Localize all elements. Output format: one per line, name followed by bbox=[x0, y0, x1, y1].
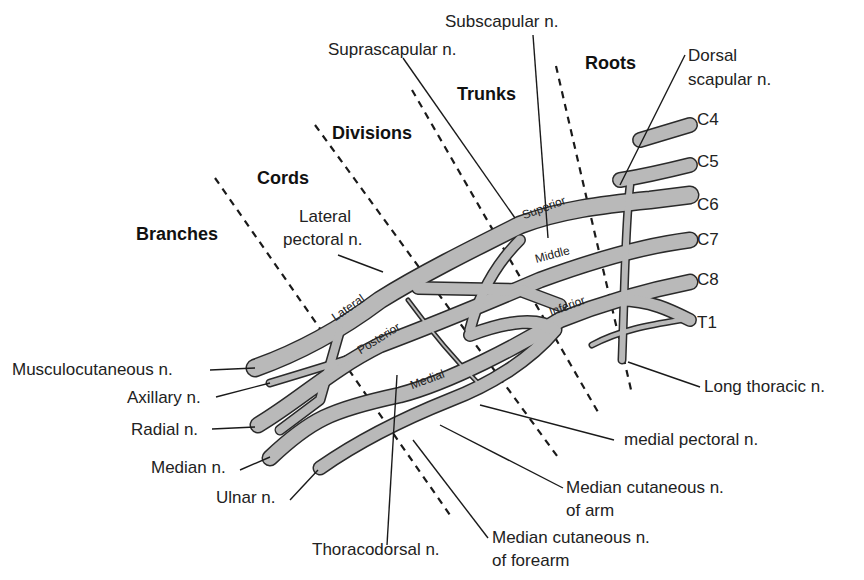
label-dorsal-scapular-line2: scapular n. bbox=[688, 70, 771, 90]
label-median-cutaneous-forearm-line1: Median cutaneous n. bbox=[492, 528, 650, 548]
section-label-roots: Roots bbox=[585, 53, 636, 74]
label-lateral-pectoral-line1: Lateral bbox=[299, 207, 351, 227]
label-subscapular: Subscapular n. bbox=[445, 12, 558, 32]
label-ulnar: Ulnar n. bbox=[216, 488, 276, 508]
section-label-cords: Cords bbox=[257, 168, 309, 189]
label-lateral-pectoral-line2: pectoral n. bbox=[283, 230, 362, 250]
label-suprascapular: Suprascapular n. bbox=[328, 40, 457, 60]
root-label-c8: C8 bbox=[697, 270, 719, 290]
root-label-c4: C4 bbox=[697, 110, 719, 130]
label-thoracodorsal: Thoracodorsal n. bbox=[312, 540, 440, 560]
section-label-trunks: Trunks bbox=[457, 84, 516, 105]
label-median-cutaneous-arm-line2: of arm bbox=[566, 501, 614, 521]
root-label-t1: T1 bbox=[697, 313, 717, 333]
label-musculocutaneous: Musculocutaneous n. bbox=[12, 360, 173, 380]
label-median-cutaneous-forearm-line2: of forearm bbox=[492, 551, 569, 571]
root-label-c6: C6 bbox=[697, 195, 719, 215]
label-long-thoracic: Long thoracic n. bbox=[704, 377, 825, 397]
label-axillary: Axillary n. bbox=[127, 388, 201, 408]
label-radial: Radial n. bbox=[131, 420, 198, 440]
label-medial-pectoral: medial pectoral n. bbox=[624, 430, 758, 450]
root-label-c7: C7 bbox=[697, 230, 719, 250]
label-median-cutaneous-arm-line1: Median cutaneous n. bbox=[566, 478, 724, 498]
root-label-c5: C5 bbox=[697, 152, 719, 172]
section-label-branches: Branches bbox=[136, 224, 218, 245]
section-label-divisions: Divisions bbox=[332, 123, 412, 144]
label-dorsal-scapular-line1: Dorsal bbox=[688, 46, 737, 66]
label-median: Median n. bbox=[151, 458, 226, 478]
